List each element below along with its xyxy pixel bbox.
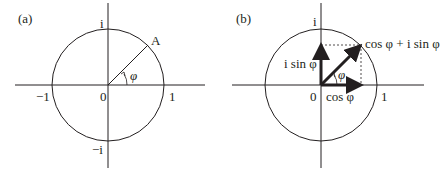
axis-label-i: i: [313, 15, 317, 28]
point-label-a: A: [151, 34, 160, 47]
angle-label-phi: φ: [130, 69, 137, 82]
axis-label-1: 1: [381, 90, 388, 103]
axis-label-neg-i: −i: [92, 143, 103, 156]
horizontal-vector-label: cos φ: [326, 90, 354, 103]
panel-b-graphic: [232, 3, 424, 168]
radius-line: [108, 45, 148, 85]
axis-label-1: 1: [169, 90, 176, 103]
axis-label-neg-1: −1: [36, 90, 50, 103]
angle-arc: [124, 74, 127, 85]
angle-label-phi: φ: [338, 68, 345, 81]
origin-label: 0: [100, 90, 107, 103]
vertical-vector-label: i sin φ: [284, 57, 317, 70]
diagram-canvas: [0, 0, 448, 174]
panel-a-tag: (a): [18, 12, 32, 25]
sum-vector-label: cos φ + i sin φ: [365, 37, 440, 50]
origin-label: 0: [310, 90, 317, 103]
axis-label-i: i: [100, 17, 104, 30]
panel-a-graphic: [15, 3, 205, 168]
panel-b-tag: (b): [236, 12, 251, 25]
